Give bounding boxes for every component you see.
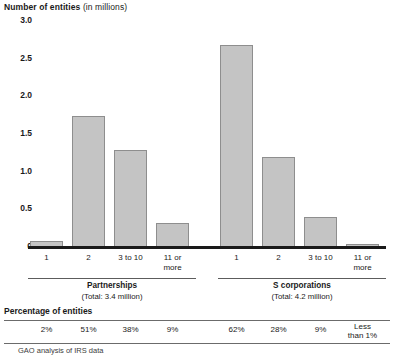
group-label-s-corporations: S corporations (Total: 4.2 million) bbox=[218, 281, 386, 302]
x-axis-label-partnerships-2: 2 bbox=[67, 253, 110, 263]
bar-s-corporations-2 bbox=[262, 157, 295, 246]
chart-y-axis-title: Number of entities (in millions) bbox=[4, 2, 127, 12]
bar-partnerships-2 bbox=[72, 116, 105, 246]
x-axis-label-s-corporations-2: 2 bbox=[257, 253, 300, 263]
group-rule-partnerships bbox=[28, 278, 196, 279]
bar-s-corporations-3-to-10 bbox=[304, 217, 337, 246]
percent-s-corporations-3-to-10: 9% bbox=[297, 325, 344, 334]
bar-s-corporations-1 bbox=[220, 45, 253, 246]
group-name-s-corporations: S corporations bbox=[218, 281, 386, 292]
bar-partnerships-3-to-10 bbox=[114, 150, 147, 246]
chart-y-axis-title-light: (in millions) bbox=[80, 2, 127, 12]
x-axis-label-s-corporations-1: 1 bbox=[215, 253, 258, 263]
group-name-partnerships: Partnerships bbox=[28, 281, 196, 292]
percent-partnerships-3-to-10: 38% bbox=[107, 325, 154, 334]
chart-figure: Number of entities (in millions) 00.51.0… bbox=[0, 0, 394, 355]
x-axis-baseline bbox=[28, 246, 386, 249]
percentage-rule-bottom bbox=[4, 343, 390, 344]
group-rule-s-corporations bbox=[218, 278, 386, 279]
x-axis-label-partnerships-1: 1 bbox=[25, 253, 68, 263]
percent-partnerships-1: 2% bbox=[23, 325, 70, 334]
percent-partnerships-2: 51% bbox=[65, 325, 112, 334]
plot-area: 00.51.01.52.02.53.0 bbox=[0, 14, 394, 250]
source-note: GAO analysis of IRS data bbox=[18, 346, 103, 355]
percent-s-corporations-1: 62% bbox=[213, 325, 260, 334]
chart-y-axis-title-bold: Number of entities bbox=[4, 2, 80, 12]
percentage-rule-top bbox=[4, 320, 390, 321]
percent-s-corporations-11-or-more: Lessthan 1% bbox=[339, 322, 386, 340]
bars-layer bbox=[0, 14, 394, 250]
x-axis-label-s-corporations-3-to-10: 3 to 10 bbox=[299, 253, 342, 263]
group-label-partnerships: Partnerships (Total: 3.4 million) bbox=[28, 281, 196, 302]
x-axis-label-s-corporations-11-or-more: 11 ormore bbox=[341, 253, 384, 272]
x-axis-label-partnerships-3-to-10: 3 to 10 bbox=[109, 253, 152, 263]
percentage-section-title: Percentage of entities bbox=[4, 306, 92, 316]
group-total-s-corporations: (Total: 4.2 million) bbox=[218, 292, 386, 303]
group-total-partnerships: (Total: 3.4 million) bbox=[28, 292, 196, 303]
x-axis-label-partnerships-11-or-more: 11 ormore bbox=[151, 253, 194, 272]
bar-partnerships-11-or-more bbox=[156, 223, 189, 246]
percent-partnerships-11-or-more: 9% bbox=[149, 325, 196, 334]
percent-s-corporations-2: 28% bbox=[255, 325, 302, 334]
